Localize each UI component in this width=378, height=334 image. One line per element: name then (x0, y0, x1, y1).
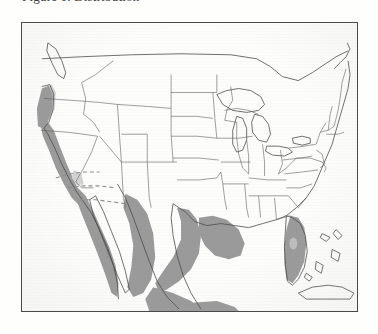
state-line-vt-nh (328, 106, 332, 130)
vancouver-island (47, 43, 66, 79)
state-line-sd-mn-ia (213, 93, 217, 139)
shaded-region-louisiana (199, 216, 245, 260)
shaded-regions (37, 85, 306, 311)
state-line-ks-ok (173, 158, 219, 160)
state-line-la-ms (245, 184, 249, 218)
state-line-oh-pa-wv (278, 150, 282, 174)
shaded-region-gulf-mexico-bottom (187, 301, 239, 311)
state-line-ut-co (121, 134, 147, 162)
lake-erie (266, 146, 293, 156)
coastlines (42, 43, 354, 309)
shaded-region-florida-core (289, 238, 297, 250)
shaded-region-sonora (123, 194, 155, 297)
state-line-id-west (82, 83, 100, 133)
state-line-wy-south (117, 104, 171, 108)
state-line-va-md (296, 158, 322, 162)
lake-huron (252, 114, 271, 142)
canada-border-north (42, 51, 348, 81)
state-line-in-oh (263, 144, 265, 176)
state-line-ia-mo (217, 136, 253, 138)
state-line-sc-nc (286, 184, 312, 188)
bahamas-island-5 (304, 273, 312, 281)
state-line-ny-east (316, 122, 326, 144)
maine-coast (334, 43, 350, 69)
state-line-id-mt (82, 61, 114, 83)
bahamas-island-4 (315, 261, 323, 273)
state-line-al-ga (274, 198, 276, 220)
cuba-outline (298, 285, 354, 299)
state-line-ok-tx (177, 172, 221, 180)
bahamas-island-1 (320, 234, 330, 242)
state-line-sd-ne (171, 116, 213, 118)
distribution-map (22, 23, 357, 311)
state-line-nc-va (284, 170, 318, 174)
lake-ontario (292, 136, 310, 145)
state-line-nv-ut (117, 104, 121, 162)
bahamas-island-2 (333, 230, 342, 240)
state-line-me-border (340, 69, 346, 99)
state-line-co-east (171, 134, 173, 162)
figure-page: Figure 1. Distribution (0, 0, 378, 334)
shaded-region-florida (284, 216, 306, 284)
state-boundaries (41, 61, 346, 220)
state-line-ms-al (259, 196, 261, 218)
state-line-mn-wi (225, 87, 233, 121)
state-line-ga-sc (288, 196, 306, 208)
state-line-tx-la-east (221, 172, 227, 210)
state-line-nm-east (147, 162, 151, 208)
state-line-ga-fl (276, 216, 290, 220)
figure-caption: Figure 1. Distribution (22, 0, 139, 5)
state-line-wv (278, 158, 296, 174)
state-line-il-in (247, 140, 249, 174)
bahamas-island-3 (331, 249, 340, 261)
state-line-nh-me (334, 98, 340, 126)
state-line-nj (316, 150, 324, 168)
figure-caption-strip: Figure 1. Distribution (0, 0, 378, 14)
state-line-ne-ks (171, 136, 217, 138)
map-frame (21, 22, 358, 312)
shaded-region-pacific-northwest (37, 86, 53, 129)
state-line-ky-tn (249, 178, 287, 180)
shaded-region-baja (76, 188, 119, 297)
state-line-ut-az (100, 136, 148, 162)
